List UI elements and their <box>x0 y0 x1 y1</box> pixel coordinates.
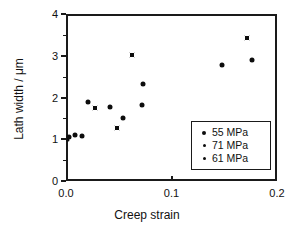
data-point <box>86 99 91 104</box>
data-point <box>79 133 84 138</box>
legend-item: 55 MPa <box>196 126 268 139</box>
y-tick-mark <box>61 138 66 140</box>
data-point <box>92 105 98 111</box>
y-tick-minor <box>63 160 66 161</box>
y-axis-title: Lath width / μm <box>12 24 26 174</box>
legend-marker-icon <box>196 144 212 147</box>
y-tick-label: 4 <box>38 9 58 20</box>
data-point <box>120 115 125 120</box>
legend-item-label: 71 MPa <box>212 139 248 152</box>
legend-item-label: 61 MPa <box>212 152 248 165</box>
x-tick-label: 0.2 <box>257 188 294 199</box>
x-axis-title: Creep strain <box>0 208 294 222</box>
legend-marker-icon <box>196 157 212 160</box>
y-tick-minor <box>63 77 66 78</box>
y-tick-label: 0 <box>38 176 58 187</box>
data-point <box>249 58 254 63</box>
x-tick-label: 0.0 <box>46 188 86 199</box>
data-point <box>67 138 70 141</box>
data-point <box>140 81 145 86</box>
y-tick-mark <box>61 13 66 15</box>
chart-legend: 55 MPa71 MPa61 MPa <box>191 121 271 170</box>
y-tick-label: 2 <box>38 92 58 103</box>
data-point <box>139 102 144 107</box>
legend-item: 71 MPa <box>196 139 268 152</box>
y-tick-minor <box>63 35 66 36</box>
y-tick-label: 1 <box>38 134 58 145</box>
data-point <box>129 52 135 58</box>
legend-marker-icon <box>196 131 212 135</box>
y-tick-minor <box>63 118 66 119</box>
x-tick-label: 0.1 <box>152 188 192 199</box>
y-tick-mark <box>61 55 66 57</box>
data-point <box>73 133 78 138</box>
y-tick-label: 3 <box>38 50 58 61</box>
data-point <box>114 125 120 131</box>
legend-item-label: 55 MPa <box>212 126 248 139</box>
scatter-chart-figure: 01234 0.00.10.2 Creep strain Lath width … <box>0 0 294 232</box>
y-tick-mark <box>61 180 66 182</box>
data-point <box>220 63 225 68</box>
data-point <box>108 104 113 109</box>
x-tick-mark <box>171 176 173 181</box>
legend-item: 61 MPa <box>196 152 268 165</box>
data-point <box>244 35 250 41</box>
y-tick-mark <box>61 97 66 99</box>
